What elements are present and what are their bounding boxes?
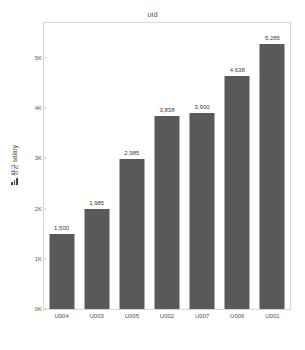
x-axis-tick-label: U001 xyxy=(265,313,279,319)
bar-chart: uid 평균 salary 0K1K2K3K4K5K 1,5001,9852,9… xyxy=(0,0,305,350)
y-axis-tick-label: 4K xyxy=(22,105,42,111)
y-axis-ticks: 0K1K2K3K4K5K xyxy=(18,22,42,310)
y-axis-tick-mark xyxy=(43,208,46,209)
bar[interactable] xyxy=(225,76,250,309)
bar-chart-icon xyxy=(11,178,18,185)
bar-group[interactable]: 5,285 xyxy=(255,23,290,309)
y-axis-tick-label: 0K xyxy=(22,306,42,312)
bar-value-label: 3,900 xyxy=(195,104,210,110)
bar[interactable] xyxy=(190,113,215,309)
bar[interactable] xyxy=(84,209,109,309)
bar-group[interactable]: 1,500 xyxy=(44,23,79,309)
bar-group[interactable]: 2,985 xyxy=(114,23,149,309)
y-axis-tick-label: 1K xyxy=(22,256,42,262)
bar-value-label: 1,500 xyxy=(54,225,69,231)
bar-value-label: 2,985 xyxy=(124,150,139,156)
y-axis-tick-mark xyxy=(43,158,46,159)
bar-group[interactable]: 4,638 xyxy=(220,23,255,309)
y-axis-tick-label: 5K xyxy=(22,55,42,61)
bar-group[interactable]: 3,900 xyxy=(185,23,220,309)
bar[interactable] xyxy=(260,44,285,309)
y-axis-tick-mark xyxy=(43,309,46,310)
x-axis-tick-label: U006 xyxy=(230,313,244,319)
x-axis-tick-label: U005 xyxy=(125,313,139,319)
x-axis-tick-label: U004 xyxy=(54,313,68,319)
bar[interactable] xyxy=(119,159,144,309)
y-axis-tick-label: 2K xyxy=(22,206,42,212)
bar-value-label: 5,285 xyxy=(265,35,280,41)
bar[interactable] xyxy=(154,116,179,309)
y-axis-tick-mark xyxy=(43,258,46,259)
x-axis-ticks: U004U003U005U002U007U006U001 xyxy=(44,313,290,327)
chart-title: uid xyxy=(0,10,305,19)
x-axis-tick-label: U007 xyxy=(195,313,209,319)
y-axis-tick-mark xyxy=(43,108,46,109)
x-axis-tick-label: U003 xyxy=(90,313,104,319)
y-axis-tick-mark xyxy=(43,58,46,59)
bars-container: 1,5001,9852,9853,8383,9004,6385,285 xyxy=(44,23,290,309)
bar-value-label: 3,838 xyxy=(159,107,174,113)
bar-value-label: 4,638 xyxy=(230,67,245,73)
bar[interactable] xyxy=(49,234,74,309)
x-axis-tick-label: U002 xyxy=(160,313,174,319)
bar-group[interactable]: 1,985 xyxy=(79,23,114,309)
bar-group[interactable]: 3,838 xyxy=(149,23,184,309)
y-axis-tick-label: 3K xyxy=(22,155,42,161)
bar-value-label: 1,985 xyxy=(89,200,104,206)
